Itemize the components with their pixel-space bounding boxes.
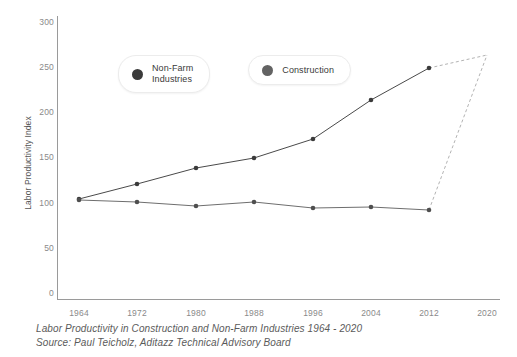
caption-source: Source: Paul Teicholz, Aditazz Technical…	[36, 336, 362, 350]
x-tick-1988: 1988	[229, 308, 279, 318]
legend-dot-icon	[132, 69, 143, 80]
x-tick-2004: 2004	[346, 308, 396, 318]
x-tick-1996: 1996	[288, 308, 338, 318]
legend-label-construction: Construction	[282, 65, 334, 76]
x-tick-2012: 2012	[404, 308, 454, 318]
labor-productivity-chart: Labor Productivity Index 300 250 200 150…	[0, 0, 517, 357]
x-axis-tick-labels: 1964 1972 1980 1988 1996 2004 2012 2020	[0, 0, 517, 357]
legend-item-construction[interactable]: Construction	[248, 55, 351, 85]
chart-legend: Non-Farm Industries Construction	[118, 55, 351, 93]
legend-item-non-farm-industries[interactable]: Non-Farm Industries	[118, 55, 210, 93]
x-tick-1964: 1964	[54, 308, 104, 318]
chart-caption: Labor Productivity in Construction and N…	[36, 322, 362, 350]
x-tick-1972: 1972	[112, 308, 162, 318]
x-tick-1980: 1980	[171, 308, 221, 318]
caption-title: Labor Productivity in Construction and N…	[36, 322, 362, 336]
x-tick-2020: 2020	[462, 308, 512, 318]
legend-dot-icon	[262, 65, 273, 76]
legend-label-non-farm-industries: Non-Farm Industries	[152, 63, 193, 85]
